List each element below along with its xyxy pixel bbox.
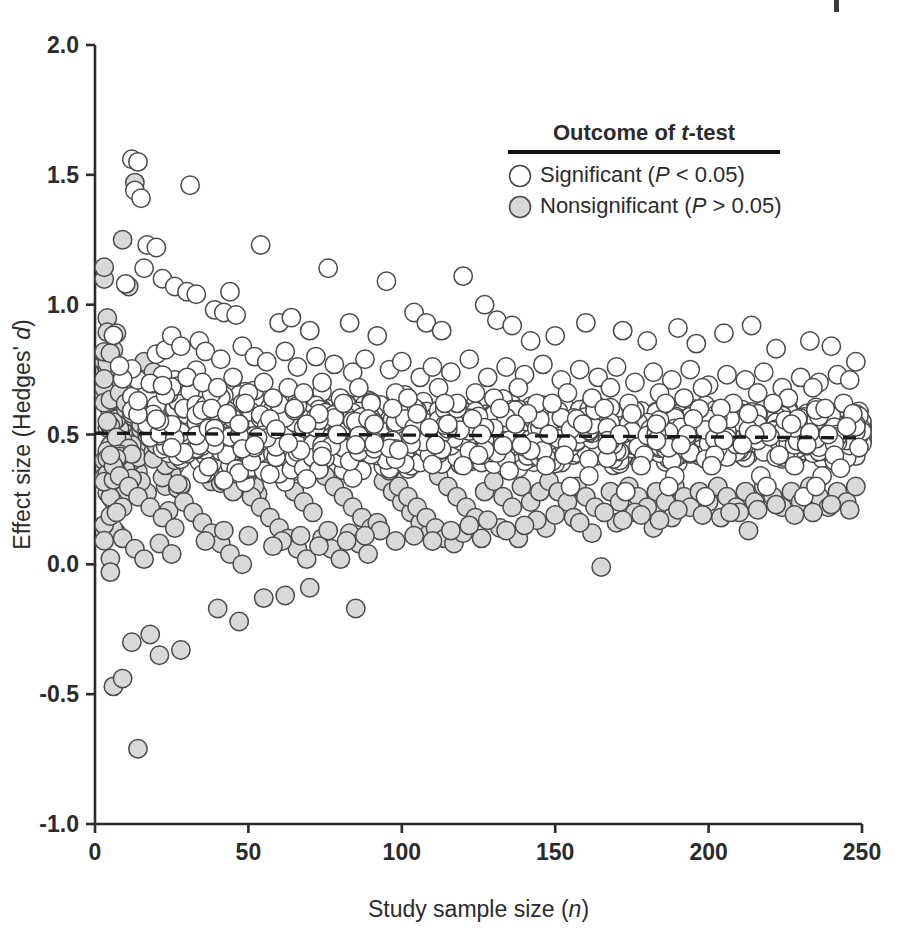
data-point — [196, 532, 214, 550]
data-point — [466, 384, 484, 402]
data-point — [595, 503, 613, 521]
data-point — [543, 394, 561, 412]
data-point — [181, 176, 199, 194]
legend-title: Outcome of t-test — [553, 120, 736, 145]
data-point — [669, 501, 687, 519]
data-point — [500, 462, 518, 480]
data-point — [742, 316, 760, 334]
x-tick-label: 50 — [236, 839, 262, 865]
data-point — [331, 550, 349, 568]
data-point — [638, 332, 656, 350]
data-point — [494, 436, 512, 454]
data-point — [841, 501, 859, 519]
data-point — [150, 646, 168, 664]
data-point — [709, 415, 727, 433]
data-point — [255, 589, 273, 607]
data-point — [561, 477, 579, 495]
data-point — [546, 506, 564, 524]
data-point — [264, 537, 282, 555]
data-point — [755, 363, 773, 381]
data-point — [236, 394, 254, 412]
data-point — [819, 425, 837, 443]
data-point — [205, 428, 223, 446]
data-point — [163, 438, 181, 456]
data-point — [739, 521, 757, 539]
y-tick-label: 2.0 — [47, 32, 79, 58]
data-point — [340, 314, 358, 332]
data-point — [702, 456, 720, 474]
data-point — [822, 337, 840, 355]
data-point — [632, 456, 650, 474]
data-point — [647, 415, 665, 433]
data-point — [365, 415, 383, 433]
data-point — [595, 399, 613, 417]
figure-container: -1.0-0.50.00.51.01.52.0050100150200250St… — [0, 0, 901, 935]
data-point — [537, 456, 555, 474]
data-point — [598, 436, 616, 454]
data-point — [693, 379, 711, 397]
data-point — [801, 332, 819, 350]
data-point — [347, 436, 365, 454]
data-point — [110, 357, 128, 375]
data-point — [307, 347, 325, 365]
data-point — [282, 308, 300, 326]
data-point — [460, 350, 478, 368]
data-point — [580, 450, 598, 468]
data-point — [304, 503, 322, 521]
data-point — [442, 521, 460, 539]
legend-marker-nonsignificant — [510, 197, 531, 218]
data-point — [163, 545, 181, 563]
data-point — [129, 392, 147, 410]
data-point — [442, 363, 460, 381]
data-point — [571, 360, 589, 378]
legend-label-significant: Significant (P < 0.05) — [540, 162, 745, 187]
data-point — [681, 360, 699, 378]
data-point — [356, 527, 374, 545]
data-point — [577, 314, 595, 332]
data-point — [135, 550, 153, 568]
data-point — [479, 368, 497, 386]
data-point — [297, 470, 315, 488]
data-point — [347, 599, 365, 617]
data-point — [230, 415, 248, 433]
data-point — [721, 503, 739, 521]
data-point — [95, 258, 113, 276]
data-point — [669, 319, 687, 337]
data-point — [423, 358, 441, 376]
data-point — [555, 446, 573, 464]
data-point — [212, 350, 230, 368]
data-point — [301, 579, 319, 597]
data-point — [521, 332, 539, 350]
data-point — [675, 389, 693, 407]
data-point — [393, 353, 411, 371]
data-point — [816, 399, 834, 417]
data-point — [285, 399, 303, 417]
data-point — [356, 350, 374, 368]
data-point — [847, 477, 865, 495]
data-point — [672, 436, 690, 454]
data-point — [113, 669, 131, 687]
data-point — [626, 373, 644, 391]
data-point — [319, 259, 337, 277]
data-point — [221, 282, 239, 300]
data-point — [276, 586, 294, 604]
data-point — [230, 612, 248, 630]
data-point — [245, 436, 263, 454]
data-point — [172, 337, 190, 355]
data-point — [632, 506, 650, 524]
y-tick-label: 0.5 — [47, 422, 79, 448]
data-point — [644, 363, 662, 381]
scatter-plot: -1.0-0.50.00.51.01.52.0050100150200250St… — [0, 0, 901, 935]
data-point — [617, 482, 635, 500]
data-point — [574, 415, 592, 433]
data-point — [718, 366, 736, 384]
data-point — [169, 475, 187, 493]
data-point — [344, 469, 362, 487]
data-point — [258, 353, 276, 371]
data-point — [807, 477, 825, 495]
data-point — [116, 275, 134, 293]
data-point — [534, 355, 552, 373]
data-point — [767, 340, 785, 358]
data-point — [153, 376, 171, 394]
data-point — [98, 412, 116, 430]
